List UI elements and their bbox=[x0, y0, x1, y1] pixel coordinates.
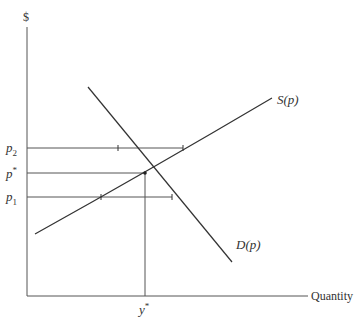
p2-sub: 2 bbox=[13, 148, 18, 158]
p1-sub: 1 bbox=[13, 197, 18, 207]
supply-label: S(p) bbox=[277, 93, 299, 106]
ystar-label: y* bbox=[139, 302, 149, 316]
y-axis-label: $ bbox=[23, 11, 29, 23]
supply-demand-diagram bbox=[0, 0, 360, 323]
p1-label: p1 bbox=[6, 190, 17, 207]
pstar-sup: * bbox=[13, 165, 18, 175]
ystar-sup: * bbox=[145, 301, 150, 311]
demand-curve bbox=[88, 87, 232, 262]
demand-label: D(p) bbox=[236, 238, 261, 251]
pstar-label: p* bbox=[6, 166, 17, 180]
x-axis-label: Quantity bbox=[311, 290, 353, 302]
equilibrium-point bbox=[143, 171, 147, 175]
p2-label: p2 bbox=[6, 141, 17, 158]
